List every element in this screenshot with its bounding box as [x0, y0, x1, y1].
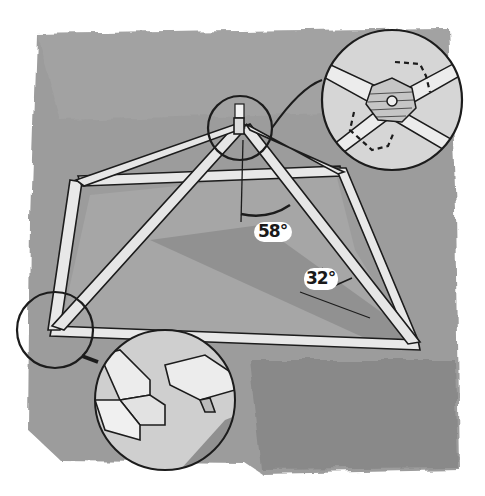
- angle-label-58: 58°: [258, 221, 287, 241]
- angle-label-32: 32°: [306, 268, 335, 288]
- roof-frame-illustration: [0, 0, 485, 496]
